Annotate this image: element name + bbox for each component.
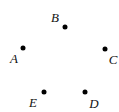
points-diagram: A B C D E xyxy=(0,0,119,112)
point-c-label: C xyxy=(109,53,118,66)
point-e-dot xyxy=(42,90,47,95)
point-b-dot xyxy=(63,25,68,30)
point-e-label: E xyxy=(29,96,37,109)
point-d-dot xyxy=(83,90,88,95)
point-c-dot xyxy=(103,47,108,52)
point-b-label: B xyxy=(51,11,59,24)
point-d-label: D xyxy=(89,97,98,110)
point-a-label: A xyxy=(10,52,18,65)
point-a-dot xyxy=(21,46,26,51)
